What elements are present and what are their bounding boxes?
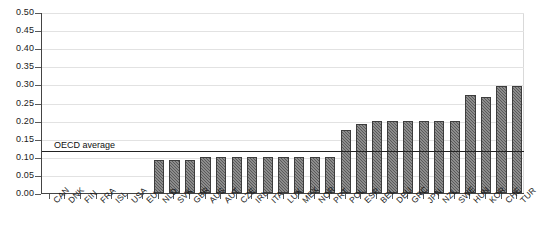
bar: [419, 121, 429, 193]
plot-area: OECD average: [41, 13, 524, 194]
y-tick-mark: [35, 194, 41, 195]
y-tick-label: 0.30: [0, 80, 34, 89]
y-tick-label: 0.10: [0, 153, 34, 162]
y-tick-mark: [35, 85, 41, 86]
bar: [403, 121, 413, 193]
x-axis-labels: CANDNKFINFRAISLUSAEUNLDSVKGBRAUSAUTCZEIR…: [41, 198, 524, 239]
bar: [512, 86, 522, 193]
bar: [496, 86, 506, 193]
bar: [263, 157, 273, 193]
y-tick-mark: [35, 31, 41, 32]
y-tick-mark: [35, 176, 41, 177]
bar: [372, 121, 382, 193]
y-tick-mark: [35, 13, 41, 14]
y-tick-label: 0.15: [0, 135, 34, 144]
y-tick-label: 0.25: [0, 99, 34, 108]
y-tick-mark: [35, 122, 41, 123]
y-tick-label: 0.20: [0, 117, 34, 126]
y-tick-mark: [35, 49, 41, 50]
oecd-average-label: OECD average: [54, 140, 115, 150]
y-axis: 0.500.450.400.350.300.250.200.150.100.05…: [0, 0, 34, 239]
bar: [450, 121, 460, 193]
y-tick-mark: [35, 104, 41, 105]
bar: [356, 124, 366, 193]
y-tick-mark: [35, 158, 41, 159]
y-tick-label: 0.40: [0, 44, 34, 53]
bar: [465, 95, 475, 193]
y-tick-mark: [35, 67, 41, 68]
y-tick-label: 0.45: [0, 26, 34, 35]
bar: [154, 160, 164, 193]
bar: [387, 121, 397, 193]
bar: [278, 157, 288, 193]
y-tick-label: 0.50: [0, 8, 34, 17]
y-tick-mark: [35, 140, 41, 141]
y-tick-label: 0.00: [0, 189, 34, 198]
bars: [42, 13, 524, 193]
y-tick-label: 0.35: [0, 62, 34, 71]
bar: [434, 121, 444, 193]
bar: [481, 97, 491, 193]
oecd-average-line: [42, 151, 524, 152]
y-tick-label: 0.05: [0, 171, 34, 180]
bar: [341, 130, 351, 193]
